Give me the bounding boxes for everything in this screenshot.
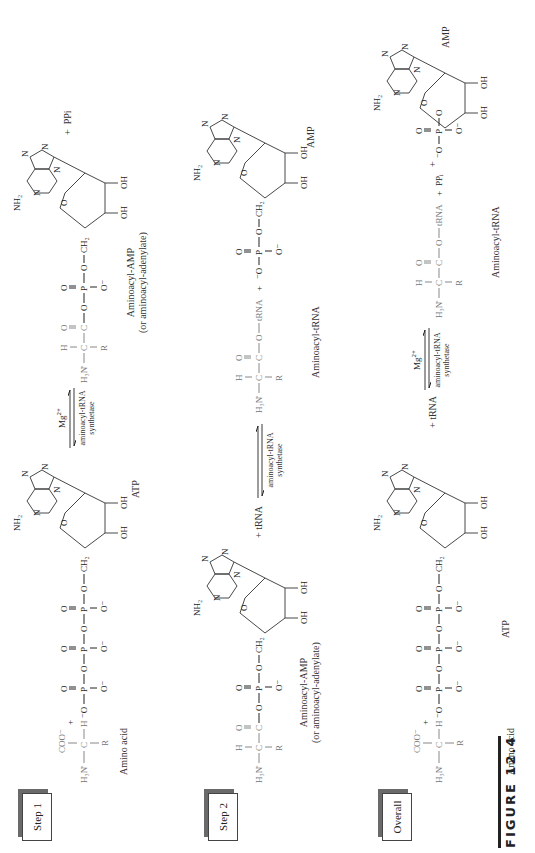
svg-text:NH₂: NH₂ [12, 515, 22, 531]
svg-text:O: O [254, 228, 264, 235]
svg-text:CH₂: CH₂ [434, 556, 444, 572]
svg-text:H₃N̊: H₃N̊ [79, 766, 89, 783]
svg-text:N: N [220, 548, 230, 555]
svg-text:O: O [59, 324, 69, 331]
svg-text:OH: OH [299, 176, 309, 189]
svg-text:O: O [434, 239, 444, 246]
svg-text:H: H [59, 344, 69, 351]
step1-product-caption: Aminoacyl-AMP (or aminoacyl-adenylate) [125, 232, 149, 333]
step2-aminoacyl-trna: H₃N̊ CH R CO O tRNA + ⁻O PO O⁻ O CH₂ [230, 193, 290, 413]
svg-text:N: N [400, 463, 410, 470]
svg-text:N: N [380, 470, 390, 477]
svg-text:O: O [59, 685, 69, 692]
svg-text:R: R [99, 345, 109, 351]
svg-text:+: + [434, 191, 444, 196]
svg-text:O: O [254, 704, 264, 711]
overall-atp-triphosphate: ⁻O PO O⁻ O PO O⁻ O PO O⁻ O CH₂ [410, 548, 470, 718]
svg-text:H: H [414, 279, 424, 286]
overall-amp-adenosine: NH₂ NNNN O OHOH [360, 0, 510, 133]
step2-equilibrium-arrow [256, 423, 264, 498]
svg-text:H: H [434, 720, 444, 727]
svg-text:P: P [79, 607, 89, 612]
svg-text:H₃N̊: H₃N̊ [254, 766, 264, 783]
svg-text:N: N [20, 470, 30, 477]
overall-plus-trna: + tRNA [427, 396, 438, 428]
overall-plus: + [427, 161, 438, 167]
svg-text:N: N [40, 463, 50, 470]
svg-text:H: H [234, 374, 244, 381]
overall-label-box: Overall [382, 793, 412, 841]
svg-text:O: O [79, 264, 89, 271]
svg-text:O⁻: O⁻ [274, 244, 284, 255]
svg-text:N: N [52, 486, 62, 493]
svg-text:O: O [239, 169, 249, 176]
svg-text:O: O [254, 664, 264, 671]
svg-text:N: N [212, 159, 222, 166]
step2-reactant-caption: Aminoacyl-AMP (or aminoacyl-adenylate) [298, 642, 322, 743]
svg-text:H₃N̊: H₃N̊ [79, 366, 89, 383]
svg-text:O: O [419, 99, 429, 106]
svg-text:R: R [100, 740, 110, 746]
svg-text:C: C [434, 260, 444, 266]
step1-enzyme: aminoacyl-tRNAsynthetase [78, 383, 96, 453]
svg-text:O⁻: O⁻ [99, 641, 109, 652]
svg-text:O: O [434, 625, 444, 632]
svg-text:N: N [400, 43, 410, 50]
step1-label: Step 1 [31, 803, 43, 831]
svg-text:P: P [254, 686, 264, 691]
svg-text:C: C [79, 742, 89, 748]
svg-text:OH: OH [479, 496, 489, 509]
svg-text:O: O [414, 685, 424, 692]
svg-text:O: O [234, 684, 244, 691]
atp-caption-step1: ATP [130, 480, 141, 498]
svg-text:H: H [234, 744, 244, 751]
svg-text:O: O [79, 665, 89, 672]
step2-aminoacyl-amp: H₃N̊ CH R CO O PO O⁻ O CH₂ [230, 633, 290, 783]
svg-text:N: N [412, 486, 422, 493]
svg-text:COO⁻: COO⁻ [57, 729, 67, 753]
step1-equilibrium-arrow [68, 388, 76, 448]
svg-text:NH₂: NH₂ [372, 515, 382, 531]
overall-atp-caption: ATP [500, 620, 511, 638]
svg-text:P: P [79, 286, 89, 291]
svg-text:H₃N̊: H₃N̊ [434, 301, 444, 318]
svg-text:OH: OH [479, 106, 489, 119]
step2-label-box: Step 2 [208, 793, 238, 841]
svg-text:N: N [212, 594, 222, 601]
svg-text:NH₂: NH₂ [372, 95, 382, 111]
svg-text:O: O [79, 625, 89, 632]
amino-acid-structure: COO⁻ H₃N̊ C H R [55, 713, 115, 783]
svg-text:OH: OH [299, 611, 309, 624]
overall-aminoacyl-trna: H₃N̊ CH R CO O tRNA + PPᵢ [410, 168, 470, 318]
svg-text:N: N [380, 50, 390, 57]
svg-text:C: C [254, 355, 264, 361]
svg-text:N: N [220, 113, 230, 120]
svg-text:C: C [434, 280, 444, 286]
svg-text:C: C [254, 375, 264, 381]
svg-text:N: N [200, 555, 210, 562]
svg-text:O: O [234, 354, 244, 361]
svg-text:O⁻: O⁻ [454, 601, 464, 612]
svg-text:CH₂: CH₂ [79, 556, 89, 572]
step2-enzyme: aminoacyl-tRNAsynthetase [266, 425, 284, 495]
svg-text:C: C [254, 725, 264, 731]
svg-text:N: N [232, 571, 242, 578]
svg-text:NH₂: NH₂ [12, 195, 22, 211]
svg-text:H₃N̊: H₃N̊ [254, 396, 264, 413]
amino-acid-caption: Amino acid [118, 728, 129, 775]
svg-text:P: P [434, 687, 444, 692]
svg-text:PPᵢ: PPᵢ [434, 174, 444, 186]
svg-text:C: C [79, 325, 89, 331]
svg-text:N: N [200, 120, 210, 127]
overall-equilibrium-arrow [423, 328, 431, 390]
step1-label-box: Step 1 [22, 793, 52, 841]
step1-catalyst: Mg2+ [55, 383, 67, 453]
svg-text:NH₂: NH₂ [192, 165, 202, 181]
overall-atp-adenosine: NH₂ NNNN O OHOH [360, 423, 510, 553]
aminoacyl-amp-structure: H₃N̊ CH R CO O PO O⁻ O CH₂ [55, 233, 115, 383]
svg-text:OH: OH [119, 496, 129, 509]
overall-aminoacyl-trna-caption: Aminoacyl-tRNA [490, 206, 501, 278]
svg-text:O: O [414, 605, 424, 612]
svg-text:⁻O: ⁻O [434, 706, 444, 718]
svg-text:O: O [59, 519, 69, 526]
